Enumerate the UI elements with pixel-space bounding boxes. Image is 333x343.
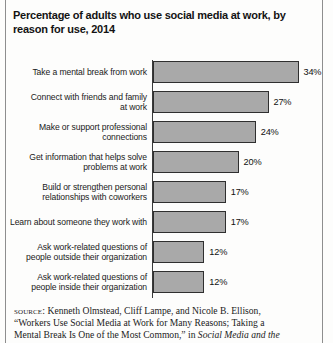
bar-row: Ask work-related questions ofpeople outs… — [0, 237, 333, 267]
bar-with-value: 24% — [153, 121, 279, 143]
bar-category-label-line1: Build or strengthen personal — [7, 182, 147, 192]
bar-category-label: Get information that helps solveproblems… — [7, 152, 147, 172]
bar-with-value: 12% — [153, 271, 227, 293]
bar-category-label-line2: people outside their organization — [7, 252, 147, 262]
bar-row: Make or support professionalconnections2… — [0, 117, 333, 147]
bar-value-label: 27% — [274, 97, 292, 107]
bar-category-label-line1: Connect with friends and family — [7, 92, 147, 102]
source-line-1: SOURCE: Kenneth Olmstead, Cliff Lampe, a… — [14, 305, 314, 317]
bar — [153, 121, 256, 143]
bar-chart: Take a mental break from work34%Connect … — [0, 57, 333, 302]
bar-rows: Take a mental break from work34%Connect … — [0, 57, 333, 297]
bar — [153, 241, 204, 263]
bar — [153, 151, 239, 173]
bar-row: Connect with friends and familyat work27… — [0, 87, 333, 117]
bar-value-label: 20% — [244, 157, 262, 167]
bar-category-label: Ask work-related questions ofpeople outs… — [7, 242, 147, 262]
bar-value-label: 34% — [304, 67, 322, 77]
bar-row: Build or strengthen personalrelationship… — [0, 177, 333, 207]
bar — [153, 271, 204, 293]
bar-category-label: Ask work-related questions ofpeople insi… — [7, 272, 147, 292]
bar-with-value: 20% — [153, 151, 261, 173]
bar-row: Learn about someone they work with17% — [0, 207, 333, 237]
bar — [153, 181, 226, 203]
bar-category-label-line1: Take a mental break from work — [7, 67, 147, 77]
bar-category-label-line1: Make or support professional — [7, 122, 147, 132]
bar — [153, 211, 226, 233]
source-line-2: “Workers Use Social Media at Work for Ma… — [14, 317, 314, 329]
bar-with-value: 27% — [153, 91, 291, 113]
bar-category-label-line1: Learn about someone they work with — [7, 217, 147, 227]
bar-category-label: Make or support professionalconnections — [7, 122, 147, 142]
bar-with-value: 17% — [153, 211, 249, 233]
bar-value-label: 12% — [209, 247, 227, 257]
bar-value-label: 24% — [261, 127, 279, 137]
bar-with-value: 12% — [153, 241, 227, 263]
source-note: SOURCE: Kenneth Olmstead, Cliff Lampe, a… — [14, 305, 314, 341]
bar — [153, 91, 269, 113]
source-publication-title: Social Media and the — [198, 329, 280, 340]
source-line-1-text: Kenneth Olmstead, Cliff Lampe, and Nicol… — [45, 305, 261, 316]
bar-category-label: Take a mental break from work — [7, 67, 147, 77]
bar-value-label: 17% — [231, 217, 249, 227]
bar-row: Ask work-related questions ofpeople insi… — [0, 267, 333, 297]
source-line-3-plain: Mental Break Is One of the Most Common,”… — [14, 329, 198, 340]
bar-category-label: Build or strengthen personalrelationship… — [7, 182, 147, 202]
bar-category-label-line1: Get information that helps solve — [7, 152, 147, 162]
bar-category-label-line1: Ask work-related questions of — [7, 272, 147, 282]
bar-category-label-line1: Ask work-related questions of — [7, 242, 147, 252]
bar-with-value: 34% — [153, 61, 321, 83]
bar-category-label-line2: connections — [7, 132, 147, 142]
bar-category-label-line2: relationships with coworkers — [7, 192, 147, 202]
bar-row: Get information that helps solveproblems… — [0, 147, 333, 177]
bar-category-label-line2: at work — [7, 102, 147, 112]
source-label: SOURCE: — [14, 305, 45, 316]
bar-category-label: Connect with friends and familyat work — [7, 92, 147, 112]
bar-value-label: 12% — [209, 277, 227, 287]
source-line-3: Mental Break Is One of the Most Common,”… — [14, 329, 314, 341]
bar-value-label: 17% — [231, 187, 249, 197]
bar-row: Take a mental break from work34% — [0, 57, 333, 87]
chart-title: Percentage of adults who use social medi… — [13, 8, 294, 36]
bar — [153, 61, 299, 83]
bar-category-label-line2: problems at work — [7, 162, 147, 172]
bar-category-label: Learn about someone they work with — [7, 217, 147, 227]
bar-category-label-line2: people inside their organization — [7, 282, 147, 292]
bar-with-value: 17% — [153, 181, 249, 203]
chart-page: Percentage of adults who use social medi… — [0, 0, 333, 343]
